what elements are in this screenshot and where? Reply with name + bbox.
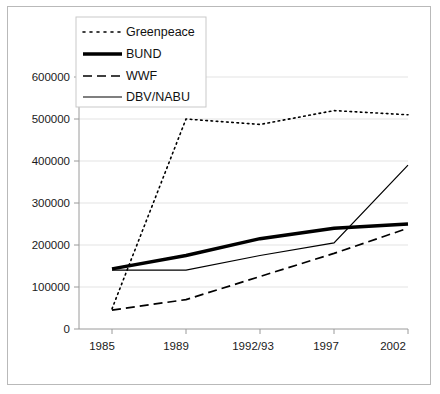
x-tick-label-1997: 1997 [313, 340, 339, 352]
x-axis-labels: 1985 1989 1992/93 1997 2002 [89, 340, 406, 352]
series-lines [112, 111, 408, 311]
x-tick-label-2002: 2002 [380, 340, 406, 352]
series-line-bund [112, 224, 408, 269]
y-tick-label-0: 0 [64, 323, 70, 335]
series-line-greenpeace [112, 111, 408, 309]
y-axis-labels: 600000 500000 400000 300000 200000 10000… [32, 71, 70, 335]
chart-legend: Greenpeace BUND WWF DBV/NABU [76, 17, 206, 107]
y-tick-label-600000: 600000 [32, 71, 70, 83]
y-tick-label-400000: 400000 [32, 155, 70, 167]
x-tick-marks [112, 329, 408, 334]
x-tick-label-1985: 1985 [89, 340, 115, 352]
legend-label-bund: BUND [126, 47, 161, 61]
x-tick-label-1992-93: 1992/93 [232, 340, 274, 352]
y-tick-label-100000: 100000 [32, 281, 70, 293]
y-tick-label-300000: 300000 [32, 197, 70, 209]
series-line-wwf [112, 228, 408, 310]
y-tick-label-500000: 500000 [32, 113, 70, 125]
y-tick-marks [74, 77, 79, 329]
x-tick-label-1989: 1989 [163, 340, 189, 352]
gridlines [79, 77, 408, 287]
legend-label-wwf: WWF [126, 69, 158, 83]
line-chart: 600000 500000 400000 300000 200000 10000… [0, 0, 440, 394]
series-line-dbv-nabu [112, 165, 408, 270]
legend-label-dbv-nabu: DBV/NABU [126, 90, 190, 104]
y-tick-label-200000: 200000 [32, 239, 70, 251]
legend-label-greenpeace: Greenpeace [126, 25, 195, 39]
